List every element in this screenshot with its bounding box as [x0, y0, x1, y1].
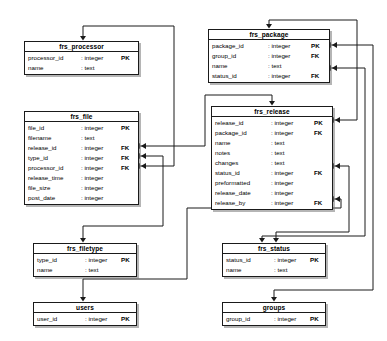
column-name: name [25, 63, 81, 73]
table-row[interactable]: package_id: integerFK [212, 128, 332, 138]
column-type: : integer [81, 163, 121, 173]
table-row[interactable]: status_id: integerFK [212, 168, 332, 178]
table-row[interactable]: status_id: integerPK [223, 255, 325, 265]
table-row[interactable]: release_date: integer [212, 188, 332, 198]
column-list-users: user_id: integerPK [34, 313, 136, 325]
arrowhead-frs_package-top [266, 24, 272, 29]
entity-table-groups[interactable]: groupsgroup_id: integerPK [222, 302, 326, 326]
table-row[interactable]: post_date: integer [25, 193, 138, 203]
column-type: : integer [81, 193, 121, 203]
entity-table-frs_package[interactable]: frs_packagepackage_id: integerPKgroup_id… [208, 29, 330, 83]
table-row[interactable]: name: text [209, 61, 329, 71]
entity-table-frs_status[interactable]: frs_statusstatus_id: integerPKname: text [222, 243, 326, 277]
column-key-badge: PK [121, 123, 130, 133]
column-type: : integer [81, 53, 121, 63]
table-row[interactable]: name: text [223, 265, 325, 275]
table-row[interactable]: file_size: integer [25, 183, 138, 193]
column-name: name [34, 265, 85, 275]
column-list-frs_file: file_id: integerPKfilename: textrelease_… [25, 122, 138, 204]
table-row[interactable]: file_id: integerPK [25, 123, 138, 133]
column-list-frs_processor: processor_id: integerPKname: text [25, 52, 138, 74]
column-type: : integer [274, 314, 310, 324]
column-name: release_id [25, 143, 81, 153]
arrowhead-tail-frs_release-package_id [335, 117, 340, 123]
column-type: : integer [271, 198, 314, 208]
table-row[interactable]: notes: text [212, 148, 332, 158]
table-title-frs_status: frs_status [223, 244, 325, 254]
table-title-frs_release: frs_release [212, 107, 332, 117]
column-key-badge: PK [121, 255, 130, 265]
arrowhead-groups-top [271, 297, 277, 302]
column-name: release_time [25, 173, 81, 183]
column-type: : integer [271, 178, 314, 188]
er-diagram-canvas: frs_processorprocessor_id: integerPKname… [0, 0, 387, 341]
column-type: : text [271, 138, 314, 148]
column-key-badge: PK [314, 118, 323, 128]
table-row[interactable]: processor_id: integerPK [25, 53, 138, 63]
column-key-badge: FK [314, 128, 322, 138]
column-type: : integer [81, 153, 121, 163]
column-type: : integer [274, 255, 310, 265]
column-type: : text [274, 265, 310, 275]
column-name: post_date [25, 193, 81, 203]
column-key-badge: FK [311, 51, 319, 61]
entity-table-frs_file[interactable]: frs_filefile_id: integerPKfilename: text… [24, 111, 139, 205]
column-name: name [212, 138, 271, 148]
table-row[interactable]: status_id: integerFK [209, 71, 329, 81]
table-row[interactable]: release_by: integerFK [212, 198, 332, 208]
table-row[interactable]: name: text [25, 63, 138, 73]
column-type: : integer [85, 255, 121, 265]
column-type: : integer [268, 71, 311, 81]
column-key-badge: FK [121, 143, 129, 153]
entity-table-frs_release[interactable]: frs_releaserelease_id: integerPKpackage_… [211, 106, 333, 210]
column-type: : text [268, 61, 311, 71]
table-row[interactable]: release_id: integerFK [25, 143, 138, 153]
table-row[interactable]: group_id: integerPK [223, 314, 325, 324]
table-row[interactable]: release_id: integerPK [212, 118, 332, 128]
arrowhead-frs_filetype-top [80, 238, 86, 243]
column-list-frs_release: release_id: integerPKpackage_id: integer… [212, 117, 332, 209]
table-row[interactable]: user_id: integerPK [34, 314, 136, 324]
column-name: name [209, 61, 268, 71]
column-type: : text [271, 148, 314, 158]
column-name: release_id [212, 118, 271, 128]
table-row[interactable]: group_id: integerFK [209, 51, 329, 61]
table-row[interactable]: changes: text [212, 158, 332, 168]
column-key-badge: FK [121, 163, 129, 173]
table-row[interactable]: release_time: integer [25, 173, 138, 183]
table-row[interactable]: type_id: integerFK [25, 153, 138, 163]
column-key-badge: PK [310, 314, 319, 324]
column-name: type_id [34, 255, 85, 265]
entity-table-frs_processor[interactable]: frs_processorprocessor_id: integerPKname… [24, 41, 139, 75]
table-row[interactable]: preformatted: integer [212, 178, 332, 188]
table-title-groups: groups [223, 303, 325, 313]
column-type: : integer [81, 123, 121, 133]
arrowhead-tail-frs_package-group_id [332, 42, 337, 48]
column-name: type_id [25, 153, 81, 163]
arrowhead-tail-frs_release-release_by [335, 196, 340, 202]
arrowhead-tail-frs_file-release_id [141, 143, 146, 149]
entity-table-frs_filetype[interactable]: frs_filetypetype_id: integerPKname: text [33, 243, 137, 277]
table-row[interactable]: name: text [34, 265, 136, 275]
column-key-badge: FK [311, 71, 319, 81]
entity-table-users[interactable]: usersuser_id: integerPK [33, 302, 137, 326]
arrowhead-frs_status-top-left [259, 238, 265, 243]
table-row[interactable]: type_id: integerPK [34, 255, 136, 265]
arrowhead-tail-frs_file-type_id [141, 153, 146, 159]
column-name: release_by [212, 198, 271, 208]
column-type: : integer [81, 183, 121, 193]
table-row[interactable]: filename: text [25, 133, 138, 143]
column-name: status_id [209, 71, 268, 81]
column-name: group_id [209, 51, 268, 61]
column-type: : integer [268, 51, 311, 61]
table-row[interactable]: processor_id: integerFK [25, 163, 138, 173]
column-name: processor_id [25, 53, 81, 63]
column-type: : integer [268, 41, 311, 51]
table-title-users: users [34, 303, 136, 313]
table-title-frs_processor: frs_processor [25, 42, 138, 52]
arrowhead-tail-frs_release-status_id [335, 163, 340, 169]
table-row[interactable]: name: text [212, 138, 332, 148]
table-title-frs_file: frs_file [25, 112, 138, 122]
arrowhead-tail-frs_package-status_id [332, 65, 337, 71]
table-row[interactable]: package_id: integerPK [209, 41, 329, 51]
